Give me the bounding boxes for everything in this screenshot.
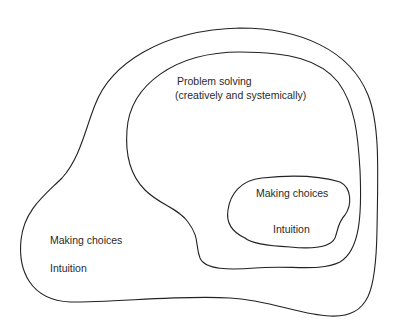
middle-region-label-title: Problem solving bbox=[177, 74, 252, 88]
outer-region-label-intuition: Intuition bbox=[50, 261, 87, 275]
inner-region-label-intuition: Intuition bbox=[273, 222, 310, 236]
inner-region-label-making-choices: Making choices bbox=[256, 186, 328, 200]
outer-region-label-making-choices: Making choices bbox=[50, 233, 122, 247]
middle-region-label-subtitle: (creatively and systemically) bbox=[175, 88, 306, 102]
nested-regions-diagram bbox=[0, 0, 396, 330]
